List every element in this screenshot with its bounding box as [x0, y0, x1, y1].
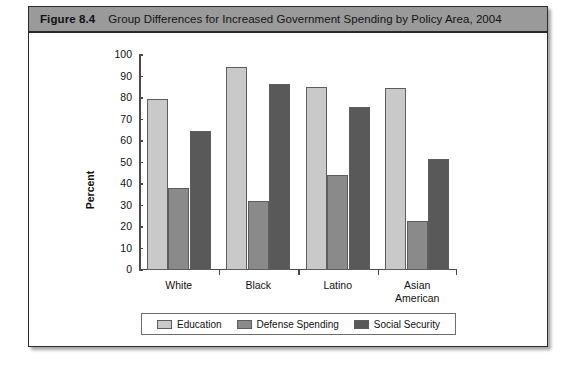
bar[interactable] — [327, 175, 348, 270]
y-axis-title: Percent — [84, 170, 96, 209]
legend-swatch — [237, 320, 252, 329]
y-axis-tick-label: 60 — [120, 134, 132, 146]
bar[interactable] — [428, 159, 449, 270]
y-axis-tick-label: 20 — [120, 220, 132, 232]
y-axis-tick-label: 100 — [114, 48, 132, 60]
x-axis-tick — [219, 270, 221, 275]
bars-layer: WhiteBlackLatinoAsian American — [139, 55, 457, 270]
chart-legend: EducationDefense SpendingSocial Security — [141, 313, 456, 335]
bar[interactable] — [269, 84, 290, 270]
plot-area: 0102030405060708090100 WhiteBlackLatinoA… — [139, 55, 457, 270]
x-axis-category-label: Black — [245, 279, 271, 292]
figure-title: Group Differences for Increased Governme… — [108, 13, 501, 25]
figure-header: Figure 8.4 Group Differences for Increas… — [29, 7, 547, 33]
legend-label: Defense Spending — [257, 319, 339, 330]
figure-number: Figure 8.4 — [40, 13, 95, 25]
source-note — [30, 358, 550, 367]
bar[interactable] — [168, 188, 189, 270]
legend-swatch — [354, 320, 369, 329]
bar[interactable] — [407, 221, 428, 270]
bar[interactable] — [385, 88, 406, 270]
y-axis-tick-label: 70 — [120, 113, 132, 125]
bar-group: Latino — [298, 55, 378, 270]
bar-group: Black — [219, 55, 299, 270]
bar[interactable] — [248, 201, 269, 270]
bar[interactable] — [349, 107, 370, 270]
x-axis-tick — [378, 270, 380, 275]
x-axis-tick — [298, 270, 300, 275]
x-axis-category-label: Asian American — [395, 279, 439, 305]
chart-canvas: Percent 0102030405060708090100 WhiteBlac… — [29, 33, 547, 346]
legend-item[interactable]: Education — [157, 319, 221, 330]
bar[interactable] — [147, 99, 168, 270]
legend-item[interactable]: Social Security — [354, 319, 440, 330]
y-axis-tick-label: 0 — [126, 263, 132, 275]
y-axis-tick-label: 80 — [120, 91, 132, 103]
legend-item[interactable]: Defense Spending — [237, 319, 339, 330]
y-axis-tick-label: 30 — [120, 199, 132, 211]
bar-group: White — [139, 55, 219, 270]
figure-root: Figure 8.4 Group Differences for Increas… — [0, 0, 586, 371]
bar[interactable] — [190, 131, 211, 270]
x-axis-category-label: Latino — [323, 279, 352, 292]
x-axis-tick — [456, 270, 458, 275]
bar[interactable] — [226, 67, 247, 270]
y-axis-tick-label: 40 — [120, 177, 132, 189]
y-axis-tick-label: 50 — [120, 156, 132, 168]
y-axis-tick-label: 10 — [120, 242, 132, 254]
legend-swatch — [157, 320, 172, 329]
figure-container: Figure 8.4 Group Differences for Increas… — [28, 6, 548, 347]
bar[interactable] — [306, 87, 327, 270]
legend-label: Social Security — [374, 319, 440, 330]
y-axis-tick-label: 90 — [120, 70, 132, 82]
bar-group: Asian American — [378, 55, 458, 270]
legend-label: Education — [177, 319, 221, 330]
x-axis-category-label: White — [165, 279, 192, 292]
